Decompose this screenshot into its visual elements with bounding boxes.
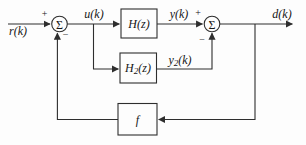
minus-sign-junction-2: − xyxy=(199,35,205,45)
output-branch-line xyxy=(159,24,255,120)
plus-sign-junction-2: + xyxy=(195,8,201,18)
plant-output-label: y(k) xyxy=(170,8,189,20)
diagram-lines xyxy=(0,0,306,145)
plus-sign-junction-1: + xyxy=(42,9,48,19)
control-signal-label: u(k) xyxy=(84,8,103,20)
feedback-block-label: f xyxy=(136,114,139,126)
minus-sign-junction-1: − xyxy=(63,30,69,40)
output-signal-label: d(k) xyxy=(272,8,291,20)
sigma-symbol-2: Σ xyxy=(209,19,216,31)
block-diagram: r(k) u(k) y(k) y2(k) d(k) H(z) H2(z) f Σ… xyxy=(0,0,306,145)
model-block-label: H2(z) xyxy=(125,62,151,76)
feedback-line xyxy=(57,33,118,119)
control-branch-line xyxy=(94,24,119,69)
model-output-label: y2(k) xyxy=(168,54,191,68)
plant-block-label: H(z) xyxy=(128,18,149,30)
input-signal-label: r(k) xyxy=(9,25,27,37)
